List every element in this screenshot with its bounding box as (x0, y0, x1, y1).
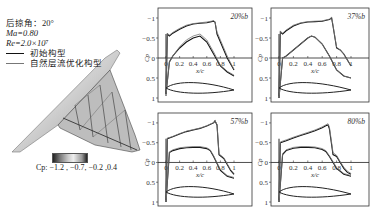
svg-text:Cp: Cp (256, 158, 264, 167)
cp-curve (279, 125, 351, 202)
svg-text:−1: −1 (148, 15, 156, 23)
svg-text:x/c: x/c (195, 67, 205, 75)
svg-text:1: 1 (152, 199, 156, 207)
cp-distribution-plots: −1−0.500.5100.20.40.60.81x/cCp20%b−1−0.5… (0, 0, 380, 218)
svg-text:0.5: 0.5 (259, 75, 268, 83)
cp-panel-57pct-b: −1−0.500.5100.20.40.60.81x/cCp57%b (142, 113, 252, 207)
svg-text:0.6: 0.6 (318, 60, 327, 68)
svg-text:57%b: 57%b (231, 117, 249, 126)
svg-text:1: 1 (152, 95, 156, 103)
airfoil-section (166, 83, 234, 94)
svg-text:0: 0 (152, 159, 156, 167)
svg-text:37%b: 37%b (347, 12, 366, 21)
svg-text:1: 1 (265, 199, 269, 207)
svg-text:−0.5: −0.5 (142, 139, 155, 147)
svg-text:−0.5: −0.5 (255, 35, 268, 43)
svg-text:−1: −1 (148, 119, 156, 127)
svg-text:0: 0 (265, 159, 269, 167)
svg-text:−0.5: −0.5 (255, 139, 268, 147)
cp-panel-80pct-b: −1−0.500.5100.20.40.60.81x/cCp80%b (255, 113, 369, 207)
cp-panel-37pct-b: −1−0.500.5100.20.40.60.81x/cCp37%b (255, 8, 369, 103)
svg-text:x/c: x/c (310, 67, 320, 75)
cp-curve (166, 121, 234, 203)
svg-text:−1: −1 (261, 15, 269, 23)
svg-text:0.5: 0.5 (146, 75, 155, 83)
svg-text:−0.5: −0.5 (142, 35, 155, 43)
airfoil-section (279, 187, 351, 198)
airfoil-section (279, 83, 351, 94)
airfoil-section (166, 187, 234, 198)
svg-text:1: 1 (349, 164, 353, 172)
svg-text:0: 0 (265, 55, 269, 63)
svg-text:0.2: 0.2 (289, 164, 298, 172)
svg-text:0.6: 0.6 (318, 164, 327, 172)
svg-text:Cp: Cp (143, 158, 151, 167)
svg-text:Cp: Cp (256, 53, 264, 62)
svg-text:0.5: 0.5 (259, 179, 268, 187)
svg-text:0.2: 0.2 (175, 60, 184, 68)
svg-text:0.2: 0.2 (175, 164, 184, 172)
svg-text:0.2: 0.2 (289, 60, 298, 68)
svg-text:−1: −1 (261, 119, 269, 127)
svg-text:Cp: Cp (143, 53, 151, 62)
cp-curve (166, 121, 234, 202)
svg-text:x/c: x/c (195, 171, 205, 179)
svg-text:1: 1 (232, 164, 236, 172)
svg-text:20%b: 20%b (231, 12, 249, 21)
svg-text:80%b: 80%b (348, 117, 366, 126)
cp-panel-20pct-b: −1−0.500.5100.20.40.60.81x/cCp20%b (142, 8, 252, 103)
svg-text:0: 0 (152, 55, 156, 63)
svg-text:1: 1 (265, 95, 269, 103)
svg-text:0.5: 0.5 (146, 179, 155, 187)
svg-text:x/c: x/c (310, 171, 320, 179)
